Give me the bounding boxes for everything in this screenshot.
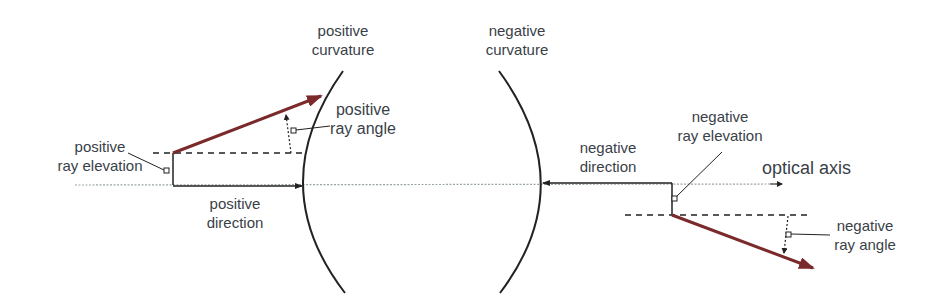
positive-direction-label: positive direction [185, 194, 285, 232]
label-line: negative [825, 216, 905, 235]
positive-ray [173, 96, 321, 153]
negative-ray-angle-label: negative ray angle [825, 216, 905, 254]
label-line: ray elevation [665, 126, 775, 145]
label-line: positive [318, 100, 408, 119]
label-line: negative [563, 138, 653, 157]
positive-curvature-label: positive curvature [288, 21, 398, 59]
label-line: ray angle [825, 235, 905, 254]
label-line: ray elevation [50, 156, 150, 175]
negative-ray [672, 215, 813, 268]
label-line: positive [288, 21, 398, 40]
label-line: negative [665, 107, 775, 126]
negative-ray-elevation-label: negative ray elevation [665, 107, 775, 145]
label-line: positive [185, 194, 285, 213]
label-line: ray angle [318, 119, 408, 138]
label-line: curvature [288, 40, 398, 59]
negative-direction-label: negative direction [563, 138, 653, 176]
label-line: negative [462, 21, 572, 40]
label-line: direction [563, 157, 653, 176]
optical-axis-label: optical axis [762, 159, 851, 178]
positive-ray-group [128, 96, 330, 186]
label-line: curvature [462, 40, 572, 59]
positive-ray-angle-label: positive ray angle [318, 100, 408, 138]
optical-axis-line [75, 184, 782, 185]
positive-ray-elevation-label: positive ray elevation [50, 137, 150, 175]
sign-convention-diagram: positive curvature negative curvature po… [0, 0, 932, 307]
negative-curvature-label: negative curvature [462, 21, 572, 59]
positive-angle-indicator [286, 115, 291, 153]
label-line: direction [185, 213, 285, 232]
label-line: positive [50, 137, 150, 156]
negative-curvature-surface [499, 71, 541, 293]
